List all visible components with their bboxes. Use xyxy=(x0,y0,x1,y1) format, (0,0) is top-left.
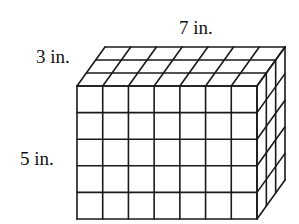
top-depth-line xyxy=(103,47,131,86)
length-label: 7 in. xyxy=(179,17,213,38)
top-depth-line xyxy=(128,47,156,86)
top-face-grid xyxy=(77,47,285,86)
top-depth-line xyxy=(206,47,234,86)
top-depth-line xyxy=(154,47,182,86)
prism-diagram: 7 in. 3 in. 5 in. xyxy=(0,0,299,224)
height-label: 5 in. xyxy=(20,148,54,169)
top-depth-line xyxy=(77,47,105,86)
top-depth-line xyxy=(180,47,208,86)
top-depth-line xyxy=(231,47,259,86)
front-face-grid xyxy=(77,86,257,219)
width-label: 3 in. xyxy=(36,46,70,67)
